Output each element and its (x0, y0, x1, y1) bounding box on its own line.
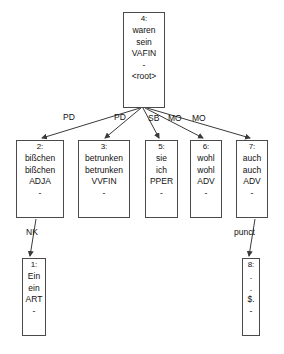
dependency-tree-canvas: 4:warenseinVAFIN-<root>2:bißchenbißchenA… (0, 0, 284, 354)
token-form: auch (237, 153, 267, 165)
token-index: 3: (79, 143, 129, 153)
edge-label-sb: SB (148, 113, 159, 123)
token-deprel: <root> (124, 71, 164, 83)
edge-label-pd: PD (63, 112, 75, 122)
token-index: 1: (23, 261, 45, 271)
token-form: Ein (23, 271, 45, 283)
token-form: sie (146, 153, 177, 165)
token-feats: - (191, 187, 221, 199)
token-lemma: bißchen (17, 164, 63, 176)
token-form: bißchen (17, 153, 63, 165)
dependency-edge (249, 219, 255, 256)
token-node-6[interactable]: 6:wohlwohlADV- (190, 140, 222, 218)
token-node-8[interactable]: 8:..$.- (242, 258, 260, 336)
token-feats: - (79, 187, 129, 199)
token-pos: VAFIN (124, 48, 164, 60)
token-lemma: wohl (191, 164, 221, 176)
token-node-5[interactable]: 5:sieichPPER- (145, 140, 178, 218)
token-pos: ART (23, 294, 45, 306)
token-pos: $. (243, 294, 259, 306)
token-lemma: . (243, 282, 259, 294)
token-feats: - (237, 187, 267, 199)
token-node-4[interactable]: 4:warenseinVAFIN-<root> (123, 12, 165, 108)
token-index: 5: (146, 143, 177, 153)
token-feats: - (124, 59, 164, 71)
token-feats: - (146, 187, 177, 199)
token-form: wohl (191, 153, 221, 165)
edge-label-pd: PD (114, 112, 126, 122)
token-lemma: ich (146, 164, 177, 176)
token-index: 4: (124, 15, 164, 25)
token-form: . (243, 271, 259, 283)
token-node-2[interactable]: 2:bißchenbißchenADJA- (16, 140, 64, 218)
token-pos: VVFIN (79, 176, 129, 188)
token-index: 6: (191, 143, 221, 153)
token-feats: - (17, 187, 63, 199)
token-form: betrunken (79, 153, 129, 165)
token-index: 7: (237, 143, 267, 153)
token-pos: ADJA (17, 176, 63, 188)
token-pos: ADV (191, 176, 221, 188)
edge-label-mo: MO (168, 113, 182, 123)
token-node-7[interactable]: 7:auchauchADV- (236, 140, 268, 218)
token-pos: ADV (237, 176, 267, 188)
token-pos: PPER (146, 176, 177, 188)
token-lemma: ein (23, 282, 45, 294)
token-lemma: betrunken (79, 164, 129, 176)
token-feats: - (23, 305, 45, 317)
edge-label-nk: NK (26, 227, 38, 237)
token-form: waren (124, 25, 164, 37)
token-feats: - (243, 305, 259, 317)
token-index: 2: (17, 143, 63, 153)
token-index: 8: (243, 261, 259, 271)
token-lemma: auch (237, 164, 267, 176)
edge-label-punct: punct (234, 227, 255, 237)
token-node-1[interactable]: 1:EineinART- (22, 258, 46, 336)
dependency-edge (30, 219, 36, 256)
edge-label-mo: MO (192, 113, 206, 123)
token-lemma: sein (124, 36, 164, 48)
token-node-3[interactable]: 3:betrunkenbetrunkenVVFIN- (78, 140, 130, 218)
